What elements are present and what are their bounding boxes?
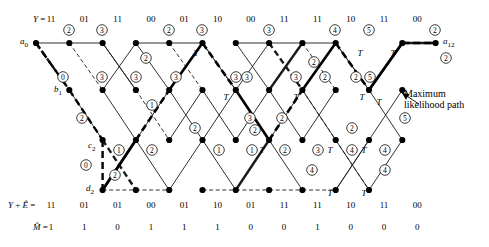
metric-value: 1 <box>150 101 154 110</box>
trellis-node[interactable] <box>100 137 106 143</box>
trellis-node[interactable] <box>299 40 305 46</box>
trellis-node[interactable] <box>100 87 106 93</box>
trellis-node[interactable] <box>333 187 339 193</box>
trellis-node[interactable] <box>133 137 139 143</box>
trellis-node[interactable] <box>233 137 239 143</box>
branch-metric: 3 <box>197 25 208 36</box>
trellis-node[interactable] <box>333 40 339 46</box>
branch-metric: 3 <box>97 25 108 36</box>
message-sequence-value: 0 <box>282 222 287 232</box>
max-likelihood-path-annotation: Maximum likelihood path <box>404 88 464 110</box>
metric-value: 4 <box>383 146 387 155</box>
trellis-node[interactable] <box>366 187 372 193</box>
corrected-sequence-value: 01 <box>246 200 255 210</box>
branch-metric: 3 <box>131 72 142 83</box>
corrected-sequence-value: 00 <box>146 200 155 210</box>
trellis-node[interactable] <box>233 87 239 93</box>
trellis-node[interactable] <box>233 40 239 46</box>
branch-metric: 2 <box>351 72 362 83</box>
metric-value: 2 <box>283 146 287 155</box>
ml-path-segment <box>36 43 69 90</box>
branch-metric: 3 <box>171 72 182 83</box>
maximum-likelihood-path <box>36 43 436 190</box>
received-sequence-value: 11 <box>280 14 289 24</box>
branch-metric: 4 <box>380 145 391 156</box>
branch-metric: 4 <box>330 25 341 36</box>
trellis-node[interactable] <box>233 187 239 193</box>
branch-metric: 2 <box>190 123 201 134</box>
trellis-node[interactable] <box>333 87 339 93</box>
trellis-node[interactable] <box>33 40 39 46</box>
tie-marker: T <box>359 92 365 102</box>
trellis-node[interactable] <box>166 187 172 193</box>
received-sequence-value: 11 <box>113 14 122 24</box>
branch-metric: 2 <box>277 113 288 124</box>
annotation-line-1: Maximum <box>404 88 464 99</box>
branch-metric: 2 <box>430 25 441 36</box>
metric-value: 5 <box>367 26 371 35</box>
metric-value: 2 <box>323 73 327 82</box>
tie-marker: T <box>376 97 382 107</box>
metric-value: 3 <box>316 146 320 155</box>
trellis-node[interactable] <box>166 87 172 93</box>
metric-value: 3 <box>294 73 298 82</box>
trellis-node[interactable] <box>100 40 106 46</box>
branch-metric: 2 <box>320 72 331 83</box>
trellis-node[interactable] <box>199 137 205 143</box>
trellis-node[interactable] <box>166 40 172 46</box>
tie-marker: T <box>357 48 363 58</box>
received-sequence-value: 10 <box>213 14 222 24</box>
message-sequence-value: 1 <box>315 222 320 232</box>
trellis-node[interactable] <box>133 87 139 93</box>
trellis-node[interactable] <box>100 187 106 193</box>
trellis-node[interactable] <box>133 187 139 193</box>
trellis-node[interactable] <box>299 137 305 143</box>
branch-metric: 2 <box>309 57 320 68</box>
trellis-node[interactable] <box>433 40 439 46</box>
trellis-node[interactable] <box>266 40 272 46</box>
trellis-node[interactable] <box>399 137 405 143</box>
corrected-sequence-value: 11 <box>380 200 389 210</box>
trellis-node[interactable] <box>299 187 305 193</box>
trellis-node[interactable] <box>266 137 272 143</box>
trellis-node[interactable] <box>66 87 72 93</box>
branch-metric: 1 <box>147 100 158 111</box>
trellis-node[interactable] <box>266 187 272 193</box>
trellis-edge <box>103 90 136 140</box>
trellis-edge <box>136 43 169 90</box>
metric-value: 5 <box>403 114 407 123</box>
branch-metric: 1 <box>247 145 258 156</box>
metric-value: 2 <box>280 114 284 123</box>
trellis-node[interactable] <box>366 137 372 143</box>
message-sequence-value: 0 <box>249 222 254 232</box>
message-sequence-value: 1 <box>149 222 154 232</box>
message-sequence-value: 1 <box>82 222 87 232</box>
message-sequence-label: M̂ = <box>33 222 48 232</box>
trellis-node[interactable] <box>133 40 139 46</box>
metric-value: 3 <box>134 73 138 82</box>
trellis-node[interactable] <box>299 87 305 93</box>
trellis-node[interactable] <box>166 137 172 143</box>
trellis-node[interactable] <box>199 40 205 46</box>
trellis-node[interactable] <box>266 87 272 93</box>
received-sequence-value: 00 <box>413 14 422 24</box>
tie-marker: T <box>327 188 333 198</box>
trellis-edges-group <box>36 43 436 190</box>
metric-value: 0 <box>61 73 65 82</box>
trellis-node[interactable] <box>66 40 72 46</box>
branch-metric: 2 <box>164 25 175 36</box>
trellis-node[interactable] <box>366 87 372 93</box>
trellis-node[interactable] <box>199 187 205 193</box>
branch-metric: 3 <box>291 72 302 83</box>
branch-metric: 5 <box>400 113 411 124</box>
ml-path-segment <box>369 43 402 90</box>
branch-metric: 3 <box>313 145 324 156</box>
metric-value: 5 <box>368 73 372 82</box>
trellis-node[interactable] <box>333 137 339 143</box>
trellis-node[interactable] <box>399 40 405 46</box>
trellis-nodes-group <box>33 40 439 193</box>
node-label-a12: a12 <box>443 36 455 49</box>
trellis-edge <box>169 140 202 190</box>
trellis-node[interactable] <box>199 87 205 93</box>
metric-value: 3 <box>248 114 252 123</box>
